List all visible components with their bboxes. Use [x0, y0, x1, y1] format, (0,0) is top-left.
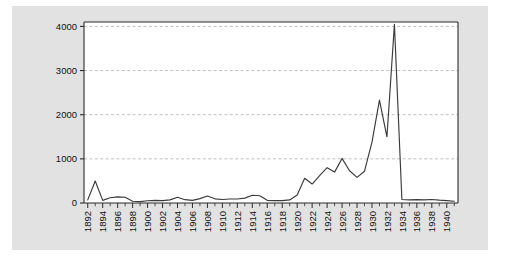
y-axis-tick-labels: 01000200030004000 — [56, 21, 77, 209]
x-tick-label: 1892 — [82, 211, 93, 232]
x-tick-label: 1926 — [337, 211, 348, 232]
line-chart: 01000200030004000 1892189418961898190019… — [0, 0, 509, 262]
x-tick-label: 1922 — [307, 211, 318, 232]
x-tick-label: 1898 — [127, 211, 138, 232]
x-tick-label: 1918 — [277, 211, 288, 232]
x-tick-label: 1932 — [382, 211, 393, 232]
y-tick-label: 2000 — [56, 109, 77, 120]
x-tick-label: 1900 — [142, 211, 153, 232]
x-axis-ticks — [88, 203, 455, 208]
x-tick-label: 1916 — [262, 211, 273, 232]
x-tick-label: 1894 — [97, 211, 108, 232]
x-tick-label: 1904 — [172, 211, 183, 232]
x-tick-label: 1896 — [112, 211, 123, 232]
x-axis-tick-labels: 1892189418961898190019021904190619081910… — [82, 211, 452, 232]
x-tick-label: 1910 — [217, 211, 228, 232]
chart-figure: 01000200030004000 1892189418961898190019… — [0, 0, 509, 262]
y-tick-label: 1000 — [56, 153, 77, 164]
y-axis-ticks — [80, 26, 84, 203]
x-tick-label: 1938 — [426, 211, 437, 232]
y-tick-label: 0 — [72, 197, 77, 208]
x-tick-label: 1906 — [187, 211, 198, 232]
x-tick-label: 1934 — [397, 211, 408, 232]
x-tick-label: 1912 — [232, 211, 243, 232]
x-tick-label: 1928 — [352, 211, 363, 232]
y-tick-label: 4000 — [56, 21, 77, 32]
x-tick-label: 1908 — [202, 211, 213, 232]
x-tick-label: 1930 — [367, 211, 378, 232]
x-tick-label: 1914 — [247, 211, 258, 232]
x-tick-label: 1920 — [292, 211, 303, 232]
x-tick-label: 1940 — [441, 211, 452, 232]
x-tick-label: 1936 — [411, 211, 422, 232]
x-tick-label: 1902 — [157, 211, 168, 232]
x-tick-label: 1924 — [322, 211, 333, 232]
y-tick-label: 3000 — [56, 65, 77, 76]
plot-background — [84, 22, 458, 203]
